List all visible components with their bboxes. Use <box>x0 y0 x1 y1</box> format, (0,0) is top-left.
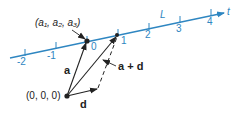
origin-label: (0, 0, 0) <box>26 90 60 101</box>
tick-label-neg2: -2 <box>17 56 26 67</box>
vector-a-label: a <box>64 64 70 76</box>
tick-label-2: 2 <box>145 29 151 40</box>
line-name-label: L <box>160 9 166 20</box>
tick-label-3: 3 <box>176 23 182 34</box>
tick-label-1: 1 <box>121 35 127 46</box>
vector-sum-label: a + d <box>118 60 143 72</box>
base-point-label: (a₁, a₂, a₃) <box>35 17 80 28</box>
tick-label-neg1: -1 <box>47 50 56 61</box>
tick-label-0: 0 <box>91 41 97 52</box>
parameter-label: t <box>227 6 230 17</box>
vector-d-label: d <box>80 98 87 110</box>
tick-label-4: 4 <box>207 16 213 27</box>
